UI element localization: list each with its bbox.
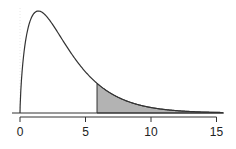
x-tick-label: 5	[82, 125, 89, 139]
chi-square-density-chart: 051015	[0, 0, 236, 149]
x-tick-label: 10	[144, 125, 158, 139]
density-curve	[20, 11, 223, 113]
x-tick-label: 0	[17, 125, 24, 139]
x-axis: 051015	[17, 117, 224, 139]
x-tick-label: 15	[210, 125, 224, 139]
